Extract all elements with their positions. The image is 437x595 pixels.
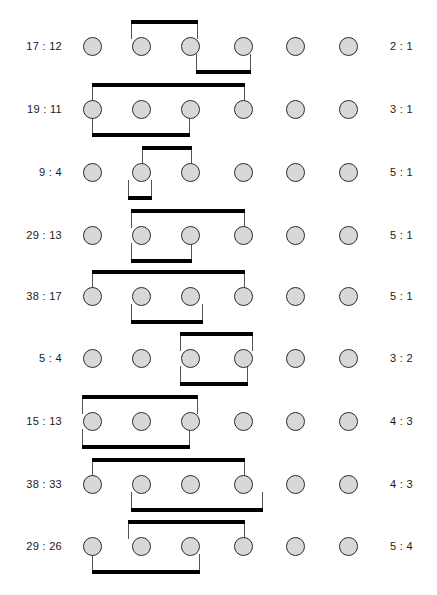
top-bracket-bar	[131, 209, 245, 213]
node-circle	[132, 226, 151, 245]
row-right-label: 5 : 1	[390, 230, 437, 241]
row-left-label: 38 : 17	[12, 291, 62, 302]
row-right-label: 2 : 1	[390, 41, 437, 52]
row-left-label: 29 : 13	[12, 230, 62, 241]
bottom-bracket-bar	[128, 196, 152, 200]
bracket-stem	[197, 24, 198, 39]
node-circle	[286, 349, 305, 368]
node-circle	[234, 37, 253, 56]
node-circle	[181, 537, 200, 556]
node-circle	[181, 287, 200, 306]
bracket-diagram: 17 : 122 : 119 : 113 : 19 : 45 : 129 : 1…	[0, 0, 437, 595]
bracket-stem	[247, 366, 248, 383]
bracket-stem	[197, 399, 198, 414]
node-circle	[234, 100, 253, 119]
bracket-stem	[82, 429, 83, 446]
node-circle	[181, 163, 200, 182]
node-circle	[83, 37, 102, 56]
bracket-stem	[92, 117, 93, 134]
bracket-stem	[202, 304, 203, 321]
bottom-bracket-bar	[92, 570, 200, 574]
bracket-stem	[131, 492, 132, 509]
node-circle	[132, 475, 151, 494]
node-circle	[339, 349, 358, 368]
top-bracket-bar	[142, 146, 192, 150]
node-circle	[181, 100, 200, 119]
node-circle	[181, 349, 200, 368]
bracket-stem	[199, 554, 200, 571]
bracket-stem	[131, 213, 132, 228]
node-circle	[234, 349, 253, 368]
bracket-stem	[128, 180, 129, 197]
top-bracket-bar	[92, 270, 245, 274]
node-circle	[181, 226, 200, 245]
node-circle	[132, 100, 151, 119]
node-circle	[234, 163, 253, 182]
row-left-label: 19 : 11	[12, 104, 62, 115]
top-bracket-bar	[131, 20, 198, 24]
bracket-stem	[151, 180, 152, 197]
node-circle	[234, 226, 253, 245]
row-right-label: 4 : 3	[390, 479, 437, 490]
node-circle	[286, 37, 305, 56]
bracket-stem	[128, 524, 129, 539]
row-right-label: 3 : 2	[390, 353, 437, 364]
node-circle	[181, 37, 200, 56]
node-circle	[181, 412, 200, 431]
node-circle	[234, 537, 253, 556]
bracket-stem	[92, 554, 93, 571]
node-circle	[83, 163, 102, 182]
node-circle	[286, 537, 305, 556]
node-circle	[83, 537, 102, 556]
bottom-bracket-bar	[131, 508, 263, 512]
row-left-label: 15 : 13	[12, 416, 62, 427]
node-circle	[339, 412, 358, 431]
bracket-stem	[131, 243, 132, 260]
node-circle	[234, 412, 253, 431]
node-circle	[132, 37, 151, 56]
bottom-bracket-bar	[131, 259, 192, 263]
row-right-label: 3 : 1	[390, 104, 437, 115]
row-left-label: 29 : 26	[12, 541, 62, 552]
node-circle	[339, 475, 358, 494]
node-circle	[132, 537, 151, 556]
node-circle	[339, 100, 358, 119]
top-bracket-bar	[92, 458, 245, 462]
top-bracket-bar	[128, 520, 245, 524]
node-circle	[286, 287, 305, 306]
bottom-bracket-bar	[82, 445, 190, 449]
bracket-stem	[250, 54, 251, 71]
node-circle	[339, 226, 358, 245]
node-circle	[339, 163, 358, 182]
node-circle	[286, 163, 305, 182]
node-circle	[286, 100, 305, 119]
node-circle	[83, 287, 102, 306]
bracket-stem	[189, 117, 190, 134]
node-circle	[132, 412, 151, 431]
row-right-label: 4 : 3	[390, 416, 437, 427]
node-circle	[286, 412, 305, 431]
node-circle	[339, 37, 358, 56]
node-circle	[181, 475, 200, 494]
row-left-label: 5 : 4	[12, 353, 62, 364]
node-circle	[339, 287, 358, 306]
row-left-label: 38 : 33	[12, 479, 62, 490]
bottom-bracket-bar	[92, 133, 190, 137]
row-right-label: 5 : 1	[390, 167, 437, 178]
bracket-stem	[196, 54, 197, 71]
node-circle	[132, 349, 151, 368]
node-circle	[83, 100, 102, 119]
bottom-bracket-bar	[196, 70, 251, 74]
bracket-stem	[180, 336, 181, 351]
node-circle	[234, 475, 253, 494]
top-bracket-bar	[180, 332, 253, 336]
bracket-stem	[180, 366, 181, 383]
row-right-label: 5 : 1	[390, 291, 437, 302]
node-circle	[83, 412, 102, 431]
bracket-stem	[82, 399, 83, 414]
bracket-stem	[262, 492, 263, 509]
node-circle	[83, 349, 102, 368]
top-bracket-bar	[92, 83, 245, 87]
row-left-label: 9 : 4	[12, 167, 62, 178]
node-circle	[286, 475, 305, 494]
